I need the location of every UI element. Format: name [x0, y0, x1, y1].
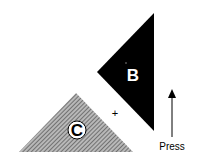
label-b: B [127, 66, 139, 85]
triangle-b: B [97, 13, 154, 131]
triangle-c: C [19, 93, 133, 152]
label-c: C [71, 121, 83, 140]
up-arrow-icon [168, 89, 176, 137]
center-plus-mark: + [112, 107, 118, 119]
diagram-canvas: B C + Press [0, 0, 197, 163]
press-label: Press [159, 141, 185, 152]
